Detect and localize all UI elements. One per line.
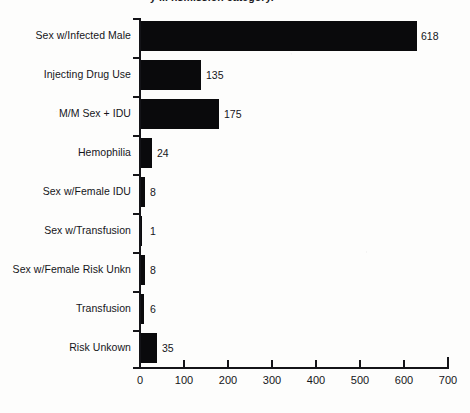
scanned-page-canvas: y ... nsmission category. Sex w/Infected… <box>0 0 470 413</box>
category-label-row: M/M Sex + IDU <box>0 107 131 119</box>
category-label-row: Sex w/Transfusion <box>0 224 131 236</box>
bar-value-label: 6 <box>150 303 156 315</box>
bar <box>141 99 219 129</box>
y-axis-tick <box>133 57 141 59</box>
category-label: Sex w/Infected Male <box>3 29 131 41</box>
x-axis-tick-label: 100 <box>164 374 204 387</box>
bar <box>141 177 145 207</box>
category-label: Sex w/Transfusion <box>3 224 131 236</box>
bar <box>141 333 157 363</box>
y-axis-tick <box>133 96 141 98</box>
bar <box>141 294 144 324</box>
x-axis-tick-200 <box>227 360 229 368</box>
category-label: M/M Sex + IDU <box>3 107 131 119</box>
x-axis-tick-label: 700 <box>428 374 468 387</box>
x-axis-tick-label: 300 <box>252 374 292 387</box>
x-axis-tick-label: 0 <box>120 374 160 387</box>
y-axis-tick <box>133 135 141 137</box>
bar-value-label: 8 <box>150 186 156 198</box>
bar-value-label: 1 <box>150 225 156 237</box>
y-axis-tick <box>133 174 141 176</box>
bar <box>141 60 201 90</box>
bar-value-label: 618 <box>421 30 439 42</box>
category-label-row: Hemophilia <box>0 146 131 158</box>
x-axis-tick-label: 200 <box>208 374 248 387</box>
x-axis-tick-label: 400 <box>296 374 336 387</box>
bar-value-label: 24 <box>157 147 169 159</box>
bar <box>141 255 145 285</box>
bar <box>141 216 142 246</box>
y-axis-tick <box>133 213 141 215</box>
bar-chart-plot-area: Sex w/Infected Male 618 Injecting Drug U… <box>0 0 470 413</box>
x-axis-tick-100 <box>183 360 185 368</box>
bar-value-label: 175 <box>224 108 242 120</box>
category-label: Sex w/Female Risk Unkn <box>3 263 131 275</box>
x-axis-tick-600 <box>403 360 405 368</box>
y-axis-tick <box>133 252 141 254</box>
x-axis-tick-700 <box>447 357 449 368</box>
category-label: Injecting Drug Use <box>3 68 131 80</box>
category-label-row: Sex w/Infected Male <box>0 29 131 41</box>
category-label: Hemophilia <box>3 146 131 158</box>
bar-value-label: 8 <box>150 264 156 276</box>
x-axis-tick-500 <box>359 360 361 368</box>
category-label-row: Transfusion <box>0 302 131 314</box>
x-axis-tick-label: 600 <box>384 374 424 387</box>
category-label: Transfusion <box>3 302 131 314</box>
y-axis-tick <box>133 330 141 332</box>
x-axis-tick-300 <box>271 360 273 368</box>
x-axis-tick-label: 500 <box>340 374 380 387</box>
category-label-row: Sex w/Female Risk Unkn <box>0 263 131 275</box>
category-label: Risk Unkown <box>3 341 131 353</box>
x-axis-tick-400 <box>315 360 317 368</box>
bar <box>141 138 152 168</box>
category-label-row: Risk Unkown <box>0 341 131 353</box>
category-label-row: Injecting Drug Use <box>0 68 131 80</box>
category-label-row: Sex w/Female IDU <box>0 185 131 197</box>
bar-value-label: 35 <box>162 342 174 354</box>
y-axis-tick <box>133 18 141 20</box>
bar-value-label: 135 <box>206 69 224 81</box>
y-axis-tick <box>133 291 141 293</box>
category-label: Sex w/Female IDU <box>3 185 131 197</box>
bar <box>141 21 417 51</box>
